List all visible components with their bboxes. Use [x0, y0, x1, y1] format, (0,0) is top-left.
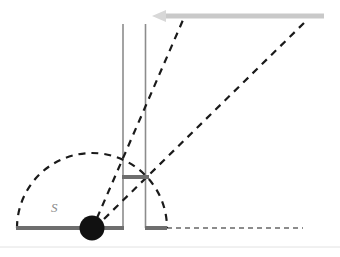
- source-point: [80, 216, 105, 241]
- figure-container: S: [0, 0, 340, 257]
- diffracted-ray-outer: [104, 21, 306, 219]
- incoming-plane-wave-arrow: [152, 10, 324, 22]
- incoming-ray-arrowhead: [152, 10, 166, 22]
- diffracted-ray-inner: [97, 20, 183, 218]
- ray-diagram-svg: [0, 0, 340, 257]
- source-label: S: [51, 200, 58, 216]
